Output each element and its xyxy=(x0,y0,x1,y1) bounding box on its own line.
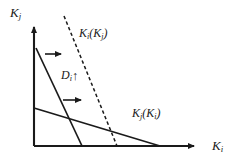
demand-shift-base: D xyxy=(61,68,70,82)
curve-j-base: K xyxy=(132,106,140,120)
curve-i-base: K xyxy=(79,26,87,40)
y-axis-label-base: K xyxy=(10,5,19,20)
y-axis-label: Kj xyxy=(10,6,21,21)
curve-j-paren-close: ) xyxy=(157,106,161,120)
x-axis-label-subscript: i xyxy=(221,144,223,154)
figure-canvas xyxy=(0,0,233,165)
curve-label-reaction-function-j: Kj(Ki) xyxy=(132,107,161,121)
y-axis-label-subscript: j xyxy=(19,11,21,21)
reaction-function-figure: Kj Ki Ki(Kj) Kj(Ki) Di↑ xyxy=(0,0,233,165)
up-arrow-icon: ↑ xyxy=(72,69,78,83)
curve-label-reaction-function-i: Ki(Kj) xyxy=(79,27,108,41)
x-axis-label-base: K xyxy=(212,138,221,153)
curve-i-paren-close: ) xyxy=(104,26,108,40)
x-axis-label: Ki xyxy=(212,139,223,154)
demand-shift-label: Di↑ xyxy=(61,69,78,83)
curve-reaction-function-i-initial xyxy=(36,48,82,146)
